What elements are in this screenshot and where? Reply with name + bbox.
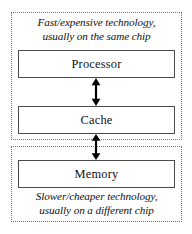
box-memory-label: Memory <box>75 167 119 182</box>
box-memory: Memory <box>18 160 175 188</box>
caption-fast-line-2: usually on the same chip <box>11 30 182 44</box>
box-cache: Cache <box>18 106 175 134</box>
box-processor-label: Processor <box>72 57 122 72</box>
caption-fast-technology: Fast/expensive technology, usually on th… <box>11 16 182 43</box>
caption-fast-line-1: Fast/expensive technology, <box>11 16 182 30</box>
box-processor: Processor <box>18 50 175 78</box>
caption-slow-technology: Slower/cheaper technology, usually on a … <box>11 190 182 217</box>
arrow-cache-memory-icon <box>89 134 103 160</box>
arrow-processor-cache-icon <box>89 78 103 106</box>
memory-hierarchy-diagram: Fast/expensive technology, usually on th… <box>0 0 192 234</box>
box-cache-label: Cache <box>81 113 113 128</box>
caption-slow-line-2: usually on a different chip <box>11 204 182 218</box>
caption-slow-line-1: Slower/cheaper technology, <box>11 190 182 204</box>
